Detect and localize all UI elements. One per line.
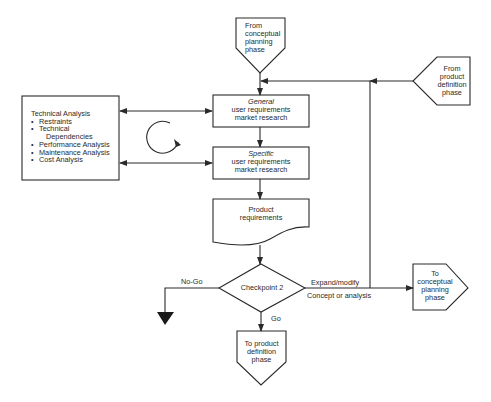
specific-requirements-label: Specific user requirements market resear…: [213, 150, 309, 174]
from-product-definition-label: From product definition phase: [432, 65, 472, 97]
circular-arrow-icon: [147, 121, 178, 153]
to-product-definition-label: To product definition phase: [237, 340, 286, 364]
go-label: Go: [271, 315, 281, 323]
no-go-label: No-Go: [181, 278, 203, 286]
expand-modify-label: Expand/modify: [311, 279, 359, 287]
concept-or-analysis-label: Concept or analysis: [307, 292, 371, 300]
list-item: Cost Analysis: [31, 156, 110, 164]
to-conceptual-label: To conceptual planning phase: [413, 270, 457, 302]
checkpoint-label: Checkpoint 2: [221, 284, 303, 292]
product-requirements-label: Product requirements: [213, 206, 309, 222]
from-conceptual-label: From conceptual planning phase: [245, 22, 280, 54]
general-requirements-label: General user requirements market researc…: [213, 98, 309, 122]
terminate-triangle-icon: [157, 312, 174, 325]
technical-analysis-content: Technical Analysis Restraints Technical …: [31, 110, 110, 164]
technical-analysis-list: Restraints Technical Dependencies Perfor…: [31, 118, 110, 164]
